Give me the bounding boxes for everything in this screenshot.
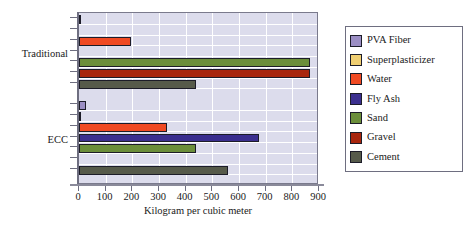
legend-swatch-icon — [350, 132, 362, 144]
x-axis-tick-label: 0 — [75, 191, 80, 202]
bar — [79, 58, 310, 67]
gridline-vertical — [292, 13, 293, 183]
legend-swatch-icon — [350, 35, 362, 47]
legend-swatch-icon — [350, 54, 362, 66]
y-axis-tick — [70, 157, 78, 158]
x-axis-tick-label: 400 — [177, 191, 193, 202]
legend-item[interactable]: Fly Ash — [350, 89, 459, 108]
legend-item[interactable]: Cement — [350, 147, 459, 166]
bar — [79, 134, 259, 143]
bar — [79, 15, 81, 24]
gridline-vertical — [132, 13, 133, 183]
bar — [79, 80, 196, 89]
chart-screenshot: TraditionalECC Kilogram per cubic meter … — [0, 0, 466, 229]
x-axis-tick-label: 500 — [203, 191, 219, 202]
x-axis-tick-label: 900 — [310, 191, 326, 202]
legend-label: Water — [367, 74, 392, 85]
y-axis-tick — [70, 125, 78, 126]
x-axis-tick-label: 800 — [283, 191, 299, 202]
x-axis-title: Kilogram per cubic meter — [78, 205, 318, 216]
legend-label: Sand — [367, 113, 388, 124]
bar — [79, 69, 310, 78]
bar — [79, 123, 167, 132]
legend-label: Superplasticizer — [367, 55, 435, 66]
legend: PVA FiberSuperplasticizerWaterFly AshSan… — [345, 26, 463, 172]
gridline-horizontal — [79, 110, 317, 111]
bar — [79, 37, 131, 46]
y-axis-tick — [70, 50, 78, 51]
y-axis-tick — [70, 82, 78, 83]
bar — [79, 112, 81, 121]
y-axis-tick — [70, 168, 78, 169]
legend-swatch-icon — [350, 93, 362, 105]
category-label-ecc: ECC — [48, 134, 68, 145]
y-axis-tick — [70, 103, 78, 104]
legend-swatch-icon — [350, 151, 362, 163]
y-axis-tick — [70, 114, 78, 115]
plot-area — [78, 12, 318, 184]
gridline-horizontal — [79, 56, 317, 57]
gridline-horizontal — [79, 164, 317, 165]
legend-item[interactable]: Superplasticizer — [350, 50, 459, 69]
y-axis-tick — [70, 17, 78, 18]
gridline-horizontal — [79, 121, 317, 122]
legend-item[interactable]: Water — [350, 70, 459, 89]
gridline-vertical — [159, 13, 160, 183]
y-axis-tick — [70, 136, 78, 137]
y-axis-tick — [70, 39, 78, 40]
legend-item[interactable]: PVA Fiber — [350, 31, 459, 50]
legend-label: PVA Fiber — [367, 35, 411, 46]
legend-label: Fly Ash — [367, 94, 400, 105]
gridline-vertical — [239, 13, 240, 183]
category-label-traditional: Traditional — [22, 48, 68, 59]
gridline-vertical — [212, 13, 213, 183]
legend-item[interactable]: Sand — [350, 109, 459, 128]
gridline-vertical — [266, 13, 267, 183]
y-axis-tick — [70, 28, 78, 29]
x-axis-tick-label: 700 — [257, 191, 273, 202]
gridline-vertical — [319, 13, 320, 183]
y-axis-tick — [70, 146, 78, 147]
category-axis-labels: TraditionalECC — [0, 0, 68, 229]
x-axis-tick-label: 100 — [97, 191, 113, 202]
y-axis-tick — [70, 60, 78, 61]
legend-swatch-icon — [350, 73, 362, 85]
x-axis-tick-label: 300 — [150, 191, 166, 202]
x-axis-tick-label: 200 — [123, 191, 139, 202]
gridline-horizontal — [79, 24, 317, 25]
x-axis-tick-label: 600 — [230, 191, 246, 202]
legend-swatch-icon — [350, 112, 362, 124]
gridline-horizontal — [79, 35, 317, 36]
legend-label: Gravel — [367, 132, 396, 143]
x-axis-line — [70, 184, 324, 186]
bar — [79, 166, 228, 175]
bar — [79, 101, 86, 110]
y-axis-tick — [70, 71, 78, 72]
bar — [79, 144, 196, 153]
legend-label: Cement — [367, 152, 400, 163]
legend-item[interactable]: Gravel — [350, 128, 459, 147]
gridline-vertical — [186, 13, 187, 183]
